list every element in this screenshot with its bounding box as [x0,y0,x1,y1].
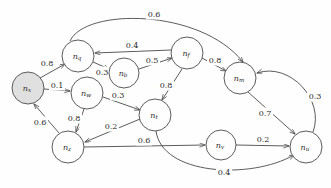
edge-weight-z-v: 0.6 [138,136,151,145]
node-subscript-q: q [78,55,82,62]
edge-weight-t-u: 0.4 [218,168,231,177]
edge-weight-f-m: 0.8 [209,56,222,65]
node-subscript-z: z [67,146,71,152]
edge-weight-v-u: 0.2 [257,135,270,144]
edge-weight-u-m: 0.3 [309,92,322,101]
edge-weight-f-t: 0.8 [160,81,173,90]
node-subscript-m: m [239,77,244,83]
edge-weight-x-q: 0.8 [41,59,54,68]
graph-canvas: 0.60.40.30.50.80.80.10.30.80.80.60.20.60… [0,0,331,188]
edge-u-to-m [257,71,315,132]
edge-weight-q-b: 0.3 [96,68,109,77]
edge-v-to-u [236,145,289,146]
edge-weight-w-z: 0.8 [68,114,81,123]
edge-weight-q-m: 0.6 [148,10,161,19]
nodes-layer: nxnqnbnfnmnwntnznvnu [12,37,322,163]
edge-weight-z-x: 0.6 [34,118,47,127]
edge-weight-w-t: 0.3 [112,91,125,100]
edge-weight-m-u: 0.7 [259,109,272,118]
edge-weight-f-q: 0.4 [126,41,139,50]
node-subscript-u: u [306,146,310,152]
node-subscript-w: w [86,92,91,98]
graph-diagram: 0.60.40.30.50.80.80.10.30.80.80.60.20.60… [0,0,331,188]
node-subscript-b: b [124,72,128,78]
edge-weight-x-w: 0.1 [51,81,64,90]
edge-weight-b-f: 0.5 [146,56,159,65]
edge-weight-t-z: 0.2 [105,122,118,131]
